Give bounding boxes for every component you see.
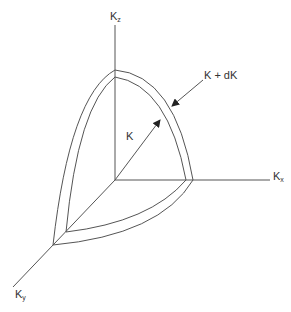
kz-axis-label: Kz — [110, 10, 121, 23]
ky-axis-label: Ky — [15, 288, 26, 302]
k-radius-label: K — [126, 130, 134, 142]
ky-axis — [13, 180, 115, 287]
k-space-shell-diagram: Kz Kx Ky K K + dK — [0, 0, 291, 312]
outer-shell-surface — [53, 70, 193, 245]
k-plus-dk-pointer-arrow — [172, 80, 203, 106]
kx-axis-label: Kx — [273, 170, 284, 183]
k-radius-arrow — [115, 120, 160, 180]
k-plus-dk-label: K + dK — [204, 69, 238, 81]
inner-shell-surface — [66, 77, 186, 232]
